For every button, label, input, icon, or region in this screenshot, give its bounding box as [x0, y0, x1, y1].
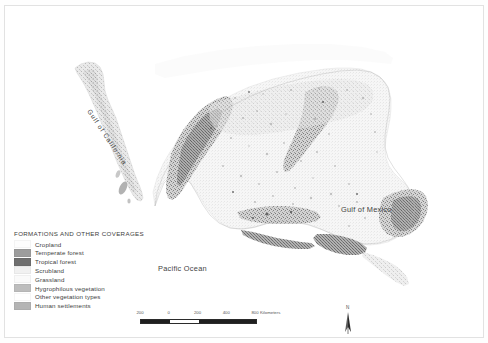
legend-title: FORMATIONS AND OTHER COVERAGES [14, 230, 142, 237]
frame-bottom-border [4, 337, 484, 338]
legend-item-label: Hygrophilous vegetation [35, 285, 105, 292]
legend-item-label: Human settlements [35, 302, 91, 309]
legend-item: Temperate forest [14, 249, 142, 257]
scale-bar-segment [141, 320, 170, 323]
legend-item: Other vegetation types [14, 293, 142, 301]
legend-item: Hygrophilous vegetation [14, 284, 142, 292]
frame-right-border [483, 5, 484, 338]
label-pacific-ocean: Pacific Ocean [158, 264, 207, 273]
legend-item: Tropical forest [14, 258, 142, 266]
label-gulf-of-mexico: Gulf of Mexico [341, 205, 392, 214]
map-legend: FORMATIONS AND OTHER COVERAGES CroplandT… [14, 230, 142, 310]
scale-bar: Kilometers 2000200400800 [140, 310, 300, 324]
legend-color-swatch [14, 302, 31, 310]
scale-bar-tick: 200 [136, 310, 143, 315]
legend-item: Cropland [14, 240, 142, 248]
legend-item-list: CroplandTemperate forestTropical forestS… [14, 240, 142, 310]
scale-bar-tick-labels: Kilometers 2000200400800 [140, 310, 300, 318]
legend-item: Human settlements [14, 301, 142, 309]
legend-item-label: Grassland [35, 276, 65, 283]
scale-bar-segment [199, 320, 228, 323]
scale-bar-tick: 200 [194, 310, 201, 315]
legend-color-swatch [14, 258, 31, 266]
legend-color-swatch [14, 275, 31, 283]
scale-bar-segments [140, 319, 257, 324]
legend-item-label: Other vegetation types [35, 293, 101, 300]
legend-item-label: Temperate forest [35, 249, 84, 256]
legend-color-swatch [14, 284, 31, 292]
scale-bar-segment [170, 320, 199, 323]
scale-bar-segment [227, 320, 256, 323]
map-page: Pacific Ocean Gulf of Mexico Gulf of Cal… [0, 0, 488, 343]
legend-color-swatch [14, 240, 31, 248]
legend-item: Grassland [14, 275, 142, 283]
scale-bar-tick: 0 [168, 310, 170, 315]
legend-item-label: Scrubland [35, 267, 64, 274]
legend-color-swatch [14, 249, 31, 257]
legend-color-swatch [14, 266, 31, 274]
north-arrow-glyph [340, 306, 358, 338]
scale-bar-tick: 800 [251, 310, 258, 315]
scale-bar-units: Kilometers [260, 310, 280, 315]
scale-bar-tick: 400 [223, 310, 230, 315]
legend-color-swatch [14, 293, 31, 301]
legend-item-label: Cropland [35, 241, 61, 248]
legend-item: Scrubland [14, 266, 142, 274]
north-arrow: N [340, 306, 358, 338]
legend-item-label: Tropical forest [35, 258, 76, 265]
north-arrow-letter: N [346, 305, 349, 310]
